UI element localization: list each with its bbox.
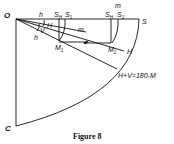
label-M1: M1 [55, 44, 64, 53]
label-S1-left: S1 [65, 11, 73, 20]
label-SH-right: SH [105, 11, 114, 20]
label-O: O [4, 11, 11, 20]
label-S: S [142, 18, 147, 25]
label-SH-left: SH [54, 11, 63, 20]
equation-label: H+V=180-M [118, 72, 156, 79]
label-h-lower: h [34, 34, 38, 41]
label-h-top: h [39, 11, 43, 18]
label-m-mid: m [78, 26, 84, 33]
angle-arc-H [43, 20, 44, 26]
label-S1-right: S1 [117, 11, 125, 20]
figure-caption: Figure 8 [73, 132, 102, 141]
label-m-top: m [115, 2, 121, 9]
label-M2: M2 [108, 46, 117, 55]
arc-S2-M2 [112, 19, 118, 43]
arc-S1-M1 [59, 19, 65, 41]
figure-8-diagram: O C S H h h H V m m SH S1 SH S1 M1 M2 H+… [0, 0, 174, 144]
label-C: C [5, 124, 11, 133]
